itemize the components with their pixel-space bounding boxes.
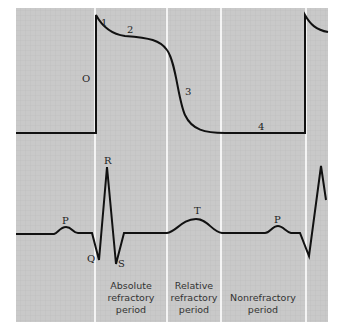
cardiac-action-potential-ecg-diagram: O 1 2 3 4 P Q R S T P Absolute refractor… (0, 0, 337, 333)
caption-line: refractory (108, 292, 155, 303)
phase-label-2: 2 (127, 24, 133, 35)
wave-label-s: S (118, 258, 125, 269)
caption-line: Relative (175, 280, 213, 291)
wave-label-t: T (194, 205, 201, 216)
wave-label-p2: P (274, 214, 281, 225)
caption-line: period (179, 304, 209, 315)
caption-line: refractory (171, 292, 218, 303)
phase-label-1: 1 (101, 17, 107, 28)
wave-label-p1: P (62, 215, 69, 226)
caption-line: Nonrefractory (230, 292, 296, 303)
caption-line: Absolute (110, 280, 152, 291)
phase-label-4: 4 (258, 121, 264, 132)
phase-label-0: O (82, 73, 90, 84)
phase-label-3: 3 (185, 86, 191, 97)
wave-label-q: Q (87, 253, 95, 264)
caption-line: period (116, 304, 146, 315)
grid-panel (16, 8, 328, 322)
caption-line: period (248, 304, 278, 315)
wave-label-r: R (104, 155, 112, 166)
